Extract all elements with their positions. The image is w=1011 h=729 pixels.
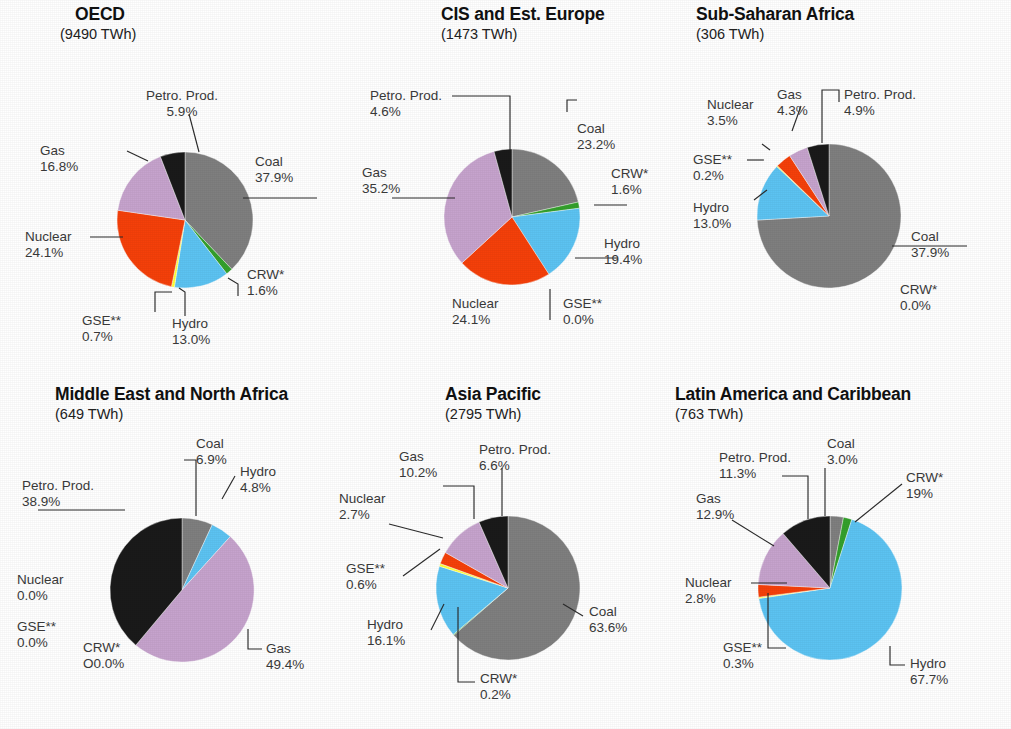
label-crw: CRW* 1.6% xyxy=(247,267,284,298)
label-gse: GSE** 0.7% xyxy=(82,313,121,344)
label-crw: CRW* 0.2% xyxy=(480,671,517,702)
label-petro-value: 4.9% xyxy=(844,103,916,119)
label-hydro-name: Hydro xyxy=(172,316,208,331)
label-crw-value: O0.0% xyxy=(83,656,124,672)
chart-panel-cis: CIS and Est. Europe (1473 TWh) Petro. Pr… xyxy=(337,0,674,364)
label-crw-name: CRW* xyxy=(900,282,937,297)
label-petro: Petro. Prod. 4.6% xyxy=(370,88,442,119)
label-hydro: Hydro 13.0% xyxy=(693,200,731,231)
label-nuclear-value: 2.8% xyxy=(685,591,732,607)
pie-svg-mena xyxy=(0,364,337,728)
label-gas: Gas 12.9% xyxy=(696,491,734,522)
label-coal: Coal 23.2% xyxy=(577,121,615,152)
pie-slices xyxy=(758,516,902,660)
label-crw-name: CRW* xyxy=(611,166,648,181)
pie-slices xyxy=(757,144,901,288)
label-crw-value: 0.0% xyxy=(900,298,937,314)
label-coal-value: 6.9% xyxy=(196,452,227,468)
pie-svg-latam xyxy=(674,364,1011,728)
label-crw-name: CRW* xyxy=(247,267,284,282)
label-gse-name: GSE** xyxy=(563,296,602,311)
label-gas-value: 35.2% xyxy=(362,181,400,197)
label-hydro: Hydro 13.0% xyxy=(172,316,210,347)
label-nuclear-value: 3.5% xyxy=(707,113,754,129)
label-petro: Petro. Prod. 11.3% xyxy=(719,450,791,481)
label-gas: Gas 35.2% xyxy=(362,165,400,196)
label-crw-value: 1.6% xyxy=(247,283,284,299)
label-nuclear-value: 24.1% xyxy=(25,245,72,261)
label-coal-value: 3.0% xyxy=(827,452,858,468)
label-coal-value: 23.2% xyxy=(577,137,615,153)
label-gas-name: Gas xyxy=(696,491,721,506)
label-nuclear-name: Nuclear xyxy=(707,97,754,112)
label-hydro-name: Hydro xyxy=(693,200,729,215)
label-gse: GSE** 0.6% xyxy=(346,561,385,592)
label-nuclear-name: Nuclear xyxy=(17,572,64,587)
label-petro-value: 5.9% xyxy=(127,104,237,120)
label-nuclear: Nuclear 2.8% xyxy=(685,575,732,606)
label-coal-name: Coal xyxy=(577,121,605,136)
label-nuclear-value: 2.7% xyxy=(339,507,386,523)
label-gas-name: Gas xyxy=(362,165,387,180)
label-nuclear: Nuclear 2.7% xyxy=(339,491,386,522)
label-hydro-name: Hydro xyxy=(910,656,946,671)
label-gas-name: Gas xyxy=(40,143,65,158)
label-nuclear-name: Nuclear xyxy=(685,575,732,590)
label-nuclear: Nuclear 24.1% xyxy=(25,229,72,260)
chart-panel-mena: Middle East and North Africa (649 TWh) C… xyxy=(0,364,337,728)
label-gas-name: Gas xyxy=(266,641,291,656)
label-gas-name: Gas xyxy=(777,87,802,102)
label-crw: CRW* 19% xyxy=(906,470,943,501)
label-hydro-name: Hydro xyxy=(367,617,403,632)
label-coal: Coal 6.9% xyxy=(196,436,227,467)
label-gse-value: 0.2% xyxy=(693,168,732,184)
label-petro-value: 6.6% xyxy=(479,458,551,474)
label-gas-value: 49.4% xyxy=(266,657,304,673)
label-nuclear-name: Nuclear xyxy=(339,491,386,506)
label-petro: Petro. Prod. 6.6% xyxy=(479,442,551,473)
label-gse-value: 0.6% xyxy=(346,577,385,593)
label-coal-name: Coal xyxy=(589,604,617,619)
label-hydro: Hydro 19.4% xyxy=(604,236,642,267)
label-gse-name: GSE** xyxy=(693,152,732,167)
label-petro-value: 11.3% xyxy=(719,466,791,482)
label-gse-value: 0.3% xyxy=(723,656,762,672)
label-petro-name: Petro. Prod. xyxy=(479,442,551,457)
label-gas-value: 10.2% xyxy=(399,465,437,481)
label-crw-name: CRW* xyxy=(480,671,517,686)
label-gse: GSE** 0.0% xyxy=(17,619,56,650)
label-crw: CRW* 0.0% xyxy=(900,282,937,313)
label-gas-value: 16.8% xyxy=(40,159,78,175)
pie-slices xyxy=(110,518,254,662)
label-nuclear-value: 0.0% xyxy=(17,588,64,604)
label-coal: Coal 3.0% xyxy=(827,436,858,467)
pie-slices xyxy=(444,149,580,285)
label-petro-name: Petro. Prod. xyxy=(22,478,94,493)
label-petro-name: Petro. Prod. xyxy=(370,88,442,103)
label-hydro-value: 16.1% xyxy=(367,633,405,649)
label-gas: Gas 4.3% xyxy=(777,87,808,118)
label-crw-value: 19% xyxy=(906,486,943,502)
label-gas: Gas 10.2% xyxy=(399,449,437,480)
label-coal: Coal 37.9% xyxy=(255,154,293,185)
label-petro: Petro. Prod. 38.9% xyxy=(22,478,94,509)
label-gse-value: 0.0% xyxy=(563,312,602,328)
label-nuclear-name: Nuclear xyxy=(452,296,499,311)
pie-slices xyxy=(117,152,253,288)
label-petro: Petro. Prod. 5.9% xyxy=(127,88,237,119)
label-crw-name: CRW* xyxy=(906,470,943,485)
label-gse-name: GSE** xyxy=(723,640,762,655)
label-nuclear-name: Nuclear xyxy=(25,229,72,244)
label-petro-value: 38.9% xyxy=(22,494,94,510)
label-crw: CRW* O0.0% xyxy=(83,640,124,671)
label-petro: Petro. Prod. 4.9% xyxy=(844,87,916,118)
label-coal: Coal 63.6% xyxy=(589,604,627,635)
label-hydro: Hydro 67.7% xyxy=(910,656,948,687)
label-gse-value: 0.7% xyxy=(82,329,121,345)
label-coal-name: Coal xyxy=(255,154,283,169)
label-crw-value: 1.6% xyxy=(611,182,648,198)
chart-panel-oecd: OECD (9490 TWh) Petro. Prod. 5.9% Coal 3… xyxy=(0,0,337,364)
label-coal: Coal 37.9% xyxy=(911,229,949,260)
label-hydro-value: 4.8% xyxy=(240,480,276,496)
label-gse-value: 0.0% xyxy=(17,635,56,651)
